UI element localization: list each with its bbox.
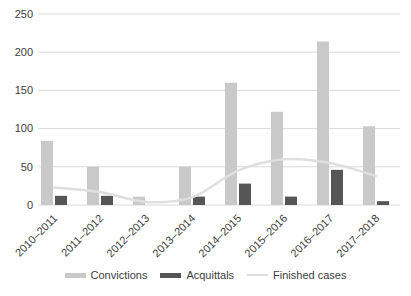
y-axis-tick-label: 150	[15, 84, 33, 96]
bar-convictions	[363, 126, 375, 205]
legend-item-acquittals: Acquittals	[160, 269, 234, 281]
x-axis-tick-label: 2011–2012	[59, 212, 106, 259]
chart-legend: Convictions Acquittals Finished cases	[0, 269, 411, 281]
bar-convictions	[225, 83, 237, 205]
x-axis-tick-label: 2012–2013	[104, 212, 151, 259]
bar-acquittals	[239, 184, 251, 205]
bar-convictions	[87, 167, 99, 205]
bar-convictions	[41, 141, 53, 205]
chart-svg: 0501001502002502010–20112011–20122012–20…	[0, 0, 411, 262]
legend-label-convictions: Convictions	[91, 269, 148, 281]
bar-acquittals	[193, 197, 205, 205]
x-axis-tick-label: 2014–2015	[196, 212, 243, 259]
legend-item-convictions: Convictions	[65, 269, 148, 281]
y-axis-tick-label: 50	[21, 161, 33, 173]
bar-acquittals	[101, 196, 113, 205]
x-axis-tick-label: 2013–2014	[150, 212, 197, 259]
x-axis-tick-label: 2017–2018	[334, 212, 381, 259]
x-axis-tick-label: 2015–2016	[242, 212, 289, 259]
y-axis-tick-label: 250	[15, 8, 33, 20]
finished-cases-line-swatch-icon	[247, 274, 268, 276]
bar-acquittals	[331, 170, 343, 205]
y-axis-tick-label: 100	[15, 122, 33, 134]
legend-label-acquittals: Acquittals	[186, 269, 234, 281]
y-axis-tick-label: 0	[27, 199, 33, 211]
convictions-swatch-icon	[65, 273, 86, 278]
bar-acquittals	[377, 201, 389, 205]
chart-container: 0501001502002502010–20112011–20122012–20…	[0, 0, 411, 296]
x-axis-tick-label: 2010–2011	[13, 212, 60, 259]
y-axis-tick-label: 200	[15, 46, 33, 58]
bar-acquittals	[55, 196, 67, 205]
legend-label-finished-cases: Finished cases	[273, 269, 346, 281]
bar-acquittals	[285, 197, 297, 205]
legend-item-finished-cases: Finished cases	[247, 269, 346, 281]
acquittals-swatch-icon	[160, 273, 181, 278]
bar-convictions	[317, 42, 329, 205]
x-axis-tick-label: 2016–2017	[288, 212, 335, 259]
